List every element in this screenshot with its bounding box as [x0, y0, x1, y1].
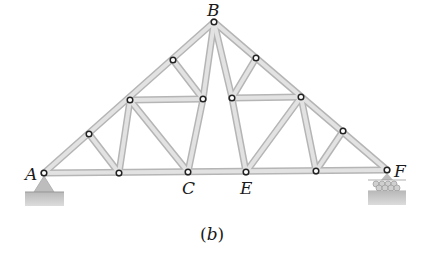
truss-diagram	[0, 0, 437, 261]
joint	[170, 57, 176, 63]
joint-F	[384, 167, 390, 173]
figure-caption: (b)	[200, 226, 224, 243]
joint	[313, 168, 319, 174]
label-E: E	[240, 180, 252, 197]
joint-A	[41, 170, 47, 176]
joint	[253, 55, 259, 61]
joint	[86, 131, 92, 137]
joint-E	[243, 169, 249, 175]
joint	[116, 170, 122, 176]
joint	[127, 97, 133, 103]
label-C: C	[182, 180, 195, 197]
label-A: A	[25, 166, 37, 183]
label-F: F	[394, 163, 406, 180]
joint	[200, 96, 206, 102]
joint	[229, 95, 235, 101]
joint-C	[185, 169, 191, 175]
joint	[340, 128, 346, 134]
joint	[298, 94, 304, 100]
truss-members	[44, 22, 387, 173]
label-B: B	[207, 2, 220, 19]
joint-B	[211, 19, 217, 25]
